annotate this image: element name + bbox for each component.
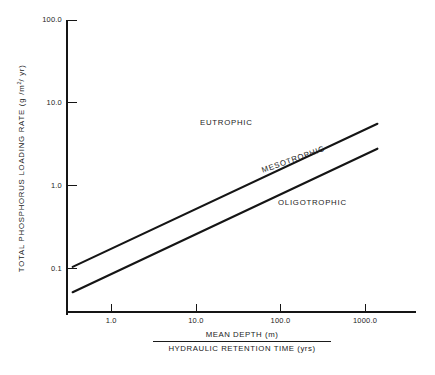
x-axis-tick-label: 100.0 <box>250 316 310 325</box>
zone-label-mesotrophic: MESOTROPHIC <box>260 144 325 175</box>
y-axis-title: TOTAL PHOSPHORUS LOADING RATE (g /m2/ yr… <box>16 38 27 298</box>
x-axis-title: MEAN DEPTH (m) HYDRAULIC RETENTION TIME … <box>126 330 358 353</box>
y-axis-tick-label-group: 100.0 <box>12 15 62 25</box>
x-axis-tick <box>365 304 366 312</box>
x-axis-tick <box>196 304 197 312</box>
y-axis-tick <box>68 268 77 269</box>
y-axis-title-main: TOTAL PHOSPHORUS LOADING RATE (g /m <box>17 85 26 273</box>
mesotrophic-oligotrophic-boundary-line <box>73 149 378 292</box>
eutrophic-mesotrophic-boundary-line <box>73 124 378 267</box>
x-axis-title-numerator: MEAN DEPTH (m) <box>126 330 358 340</box>
zone-label-oligotrophic: OLIGOTROPHIC <box>278 198 347 207</box>
phosphorus-loading-chart: 100.0 10.0 1.0 0.1 1.0 10.0 100.0 1000.0… <box>0 0 435 375</box>
zone-label-eutrophic: EUTROPHIC <box>200 118 253 127</box>
y-axis-tick <box>68 102 77 103</box>
x-axis-title-denominator: HYDRAULIC RETENTION TIME (yrs) <box>126 344 358 353</box>
x-axis-tick-label: 1.0 <box>81 316 141 325</box>
x-axis-line <box>66 311 416 313</box>
x-axis-tick-label: 1000.0 <box>335 316 395 325</box>
fraction-divider-line <box>153 341 331 342</box>
y-axis-title-exponent: 2 <box>16 82 22 85</box>
y-axis-title-tail: / yr) <box>17 64 26 81</box>
y-axis-tick <box>68 185 77 186</box>
x-axis-tick <box>111 304 112 312</box>
x-axis-tick <box>280 304 281 312</box>
y-axis-line <box>66 20 68 315</box>
y-axis-tick-label: 100.0 <box>16 15 62 24</box>
y-axis-tick <box>68 20 77 21</box>
x-axis-tick-label: 10.0 <box>166 316 226 325</box>
